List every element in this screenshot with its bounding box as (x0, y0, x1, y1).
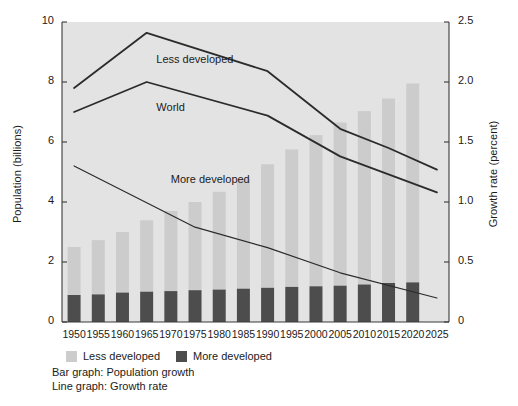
bar-less-developed-1995 (285, 150, 298, 287)
population-growth-chart: Population (billions) Growth rate (perce… (0, 0, 518, 406)
bar-more-developed-1950 (68, 295, 81, 322)
annotation-world: World (156, 101, 185, 113)
annotation-less-developed: Less developed (156, 53, 233, 65)
bar-more-developed-2020 (406, 282, 419, 322)
bar-less-developed-1985 (237, 179, 250, 289)
bar-more-developed-1990 (261, 288, 274, 322)
bar-less-developed-1980 (213, 192, 226, 290)
caption-bar-note: Bar graph: Population growth (52, 365, 288, 380)
bar-less-developed-2000 (309, 135, 322, 286)
legend-entry-more-developed: More developed (176, 349, 272, 364)
caption-line-note: Line graph: Growth rate (52, 379, 288, 394)
bar-less-developed-1955 (92, 240, 105, 294)
annotation-more-developed: More developed (171, 173, 250, 185)
plot-area: Less developedWorldMore developed (0, 0, 518, 406)
bar-more-developed-1965 (140, 292, 153, 322)
bar-more-developed-1980 (213, 290, 226, 322)
bar-more-developed-2015 (382, 283, 395, 322)
bar-more-developed-1975 (189, 290, 202, 322)
bar-less-developed-1990 (261, 164, 274, 288)
bar-more-developed-1970 (164, 291, 177, 322)
bar-more-developed-2000 (309, 286, 322, 322)
legend-swatch-icon (66, 351, 77, 362)
bar-less-developed-1960 (116, 232, 129, 293)
bar-less-developed-1965 (140, 220, 153, 291)
bar-more-developed-1955 (92, 294, 105, 322)
bar-more-developed-2005 (334, 286, 347, 322)
legend-label: More developed (193, 349, 272, 364)
bar-less-developed-1950 (68, 247, 81, 295)
bar-less-developed-1970 (164, 211, 177, 291)
bar-more-developed-1995 (285, 287, 298, 322)
chart-legend: Less developedMore developed (66, 349, 288, 364)
chart-caption: Less developedMore developed Bar graph: … (52, 349, 288, 394)
bar-more-developed-1960 (116, 293, 129, 322)
legend-swatch-icon (176, 351, 187, 362)
legend-entry-less-developed: Less developed (66, 349, 160, 364)
bar-less-developed-2015 (382, 99, 395, 284)
legend-label: Less developed (83, 349, 160, 364)
bar-more-developed-2010 (358, 285, 371, 323)
bar-more-developed-1985 (237, 289, 250, 322)
bar-less-developed-1975 (189, 202, 202, 290)
bar-less-developed-2005 (334, 123, 347, 286)
